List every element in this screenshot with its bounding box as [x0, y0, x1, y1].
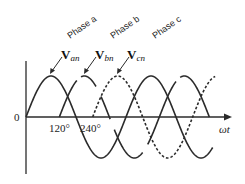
x-axis-arrow-icon: [224, 114, 232, 121]
vbn-label: Vbn: [95, 47, 114, 63]
phase-c-label: Phase c: [150, 14, 183, 41]
van-label: Van: [61, 47, 80, 63]
tick-label-120: 120°: [49, 122, 70, 134]
three-phase-waveform-diagram: Van Vbn Vcn Phase a Phase b Phase c 0 12…: [0, 0, 245, 184]
phase-b-label: Phase b: [108, 14, 141, 41]
x-axis-label: ωt: [219, 123, 231, 135]
origin-label: 0: [14, 111, 20, 123]
vcn-label: Vcn: [127, 47, 145, 63]
tick-label-240: 240°: [80, 122, 101, 134]
phase-a-label: Phase a: [65, 14, 98, 41]
